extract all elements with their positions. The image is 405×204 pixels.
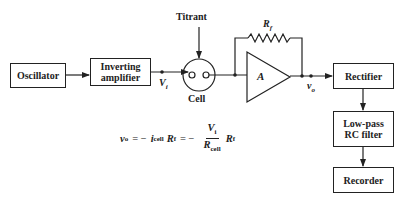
- resistor-rf: [248, 34, 290, 42]
- junction-output: [300, 74, 304, 78]
- junction-input: [233, 73, 237, 77]
- electrode-right: [203, 72, 209, 78]
- titrant-label: Titrant: [176, 11, 207, 22]
- recorder-block: Recorder: [333, 167, 394, 193]
- inverting-amplifier-label-2: amplifier: [101, 72, 140, 83]
- amplifier-a-label: A: [257, 70, 264, 82]
- vo-label: vo: [307, 80, 315, 94]
- recorder-label: Recorder: [344, 175, 384, 186]
- output-equation: vo = − icell Rf = − Vi Rcell Rf: [120, 122, 235, 155]
- vi-label: Vi: [159, 77, 168, 91]
- rectifier-label: Rectifier: [345, 71, 382, 82]
- lowpass-filter-block: Low-pass RC filter: [333, 111, 394, 147]
- inverting-amplifier-label-1: Inverting: [101, 61, 141, 72]
- rectifier-block: Rectifier: [333, 63, 394, 89]
- cell-label: Cell: [188, 93, 205, 104]
- rf-label: Rf: [263, 18, 272, 32]
- electrode-left: [189, 72, 195, 78]
- lowpass-label-2: RC filter: [344, 129, 382, 140]
- fraction: Vi Rcell: [202, 122, 223, 155]
- oscillator-label: Oscillator: [17, 70, 59, 81]
- inverting-amplifier-block: Inverting amplifier: [90, 58, 151, 86]
- lowpass-label-1: Low-pass: [343, 118, 384, 129]
- opamp-triangle: [247, 52, 290, 102]
- oscillator-block: Oscillator: [10, 63, 66, 88]
